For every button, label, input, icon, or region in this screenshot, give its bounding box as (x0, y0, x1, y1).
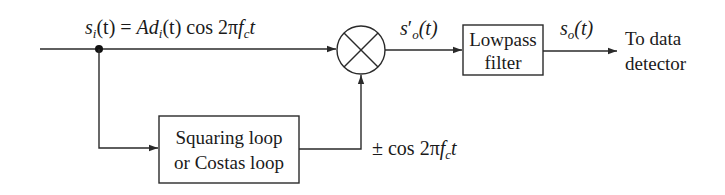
lowpass-label-line1: Lowpass (469, 29, 537, 50)
recovery-label-line1: Squaring loop (175, 127, 282, 148)
recovery-label-line2: or Costas loop (174, 152, 284, 173)
input-signal-label: si(t) = Adi(t) cos 2πfct (85, 16, 255, 41)
filter-output-label: so(t) (560, 17, 594, 42)
carrier-label: ± cos 2πfct (372, 137, 457, 162)
multiplier-icon (337, 26, 385, 74)
lowpass-label-line2: filter (485, 52, 523, 73)
output-label-line1: To data (625, 28, 682, 49)
carrier-line (299, 75, 361, 149)
demodulator-block-diagram: Squaring loop or Costas loop Lowpass fil… (0, 0, 725, 195)
mixer-output-label: s′o(t) (400, 17, 438, 42)
branch-line (99, 49, 158, 148)
output-label-line2: detector (625, 53, 687, 74)
